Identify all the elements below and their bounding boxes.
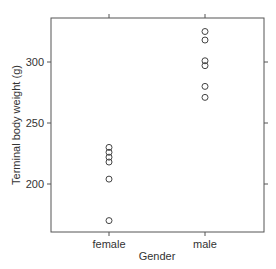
data-point-male xyxy=(202,37,208,43)
axis-ticks: 200250300femalemale xyxy=(26,14,268,250)
data-point-male xyxy=(202,94,208,100)
x-tick-label-female: female xyxy=(92,238,125,250)
scatter-chart: 200250300femalemale Gender Terminal body… xyxy=(0,0,276,269)
plot-frame xyxy=(51,18,264,232)
x-axis-label: Gender xyxy=(139,250,176,262)
y-tick-label: 300 xyxy=(26,56,44,68)
data-point-female xyxy=(106,176,112,182)
y-tick-label: 250 xyxy=(26,117,44,129)
data-point-male xyxy=(202,83,208,89)
plot-border xyxy=(51,18,264,232)
data-point-female xyxy=(106,218,112,224)
chart-svg: 200250300femalemale Gender Terminal body… xyxy=(0,0,276,269)
data-points xyxy=(106,29,208,224)
x-tick-label-male: male xyxy=(193,238,217,250)
y-tick-label: 200 xyxy=(26,178,44,190)
y-axis-label: Terminal body weight (g) xyxy=(10,65,22,185)
data-point-male xyxy=(202,29,208,35)
